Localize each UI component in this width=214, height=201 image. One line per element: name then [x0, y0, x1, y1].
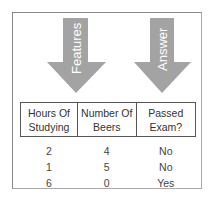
cell-beers: 0: [77, 175, 136, 191]
cell-hours: 6: [21, 175, 78, 191]
cell-hours: 2: [21, 137, 78, 160]
answer-label: Answer: [155, 27, 170, 71]
cell-passed: Yes: [136, 175, 195, 191]
cell-hours: 1: [21, 159, 78, 175]
table-header-row: Hours OfStudying Number OfBeers PassedEx…: [21, 103, 196, 137]
answer-arrow: Answer: [134, 18, 191, 93]
cell-passed: No: [136, 159, 195, 175]
cell-passed: No: [136, 137, 195, 160]
header-hours-of-studying: Hours OfStudying: [21, 103, 78, 137]
data-table: Hours OfStudying Number OfBeers PassedEx…: [20, 102, 196, 191]
features-label: Features: [69, 22, 84, 74]
arrows-layer: Features Answer: [0, 0, 214, 100]
cell-beers: 5: [77, 159, 136, 175]
features-arrow: Features: [47, 18, 106, 93]
header-passed-exam: PassedExam?: [136, 103, 195, 137]
table-row: 1 5 No: [21, 159, 196, 175]
header-number-of-beers: Number OfBeers: [77, 103, 136, 137]
table-row: 2 4 No: [21, 137, 196, 160]
cell-beers: 4: [77, 137, 136, 160]
table-row: 6 0 Yes: [21, 175, 196, 191]
